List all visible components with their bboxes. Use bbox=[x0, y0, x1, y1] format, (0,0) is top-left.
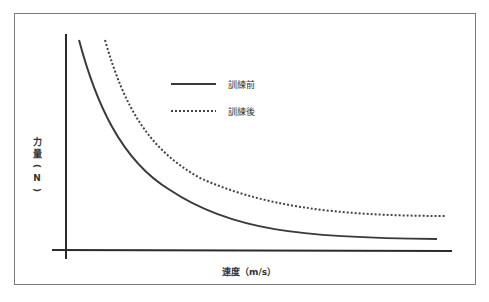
legend-after-label: 訓練後 bbox=[228, 105, 255, 118]
chart-plot bbox=[0, 0, 489, 302]
ylabel-char: ) bbox=[31, 184, 43, 196]
series-before-line bbox=[79, 40, 437, 239]
ylabel-char: 量 bbox=[31, 148, 43, 160]
ylabel-char: 力 bbox=[31, 136, 43, 148]
x-axis bbox=[52, 250, 452, 251]
ylabel-char: N bbox=[31, 172, 43, 184]
x-axis-label: 速度（m/s） bbox=[222, 265, 276, 278]
series-after-line bbox=[105, 40, 446, 216]
legend-before-label: 訓練前 bbox=[228, 78, 255, 91]
y-axis-label: 力 量 ( N ) bbox=[31, 136, 43, 196]
ylabel-char: ( bbox=[31, 160, 43, 172]
